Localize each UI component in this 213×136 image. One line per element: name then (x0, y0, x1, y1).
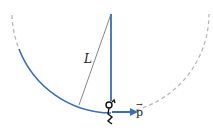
pendulum-diagram (0, 0, 213, 136)
momentum-label: → p (136, 106, 143, 119)
vector-arrow-icon: → (136, 100, 143, 109)
solid-arc (19, 49, 111, 113)
length-label: L (84, 52, 92, 66)
dashed-arc-right (136, 14, 209, 110)
dashed-arc-left (12, 15, 19, 49)
